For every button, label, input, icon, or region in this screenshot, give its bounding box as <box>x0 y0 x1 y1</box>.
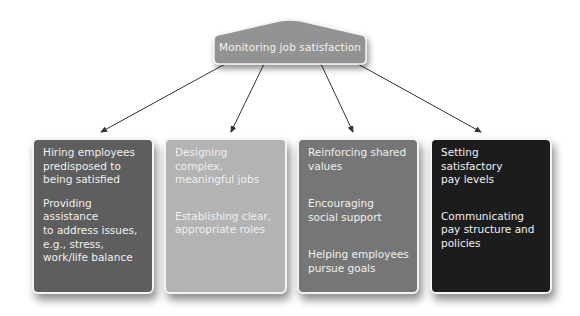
card-2-item-2: Establishing clear, appropriate roles <box>175 210 277 237</box>
card-3-item-1: Reinforcing shared values <box>308 146 409 173</box>
arrow-to-card-4 <box>358 64 481 132</box>
job-satisfaction-diagram: Monitoring job satisfaction Hiring emplo… <box>0 0 580 316</box>
card-3-item-3: Helping employees pursue goals <box>308 248 409 275</box>
card-4-item-1: Setting satisfactory pay levels <box>441 146 542 187</box>
arrow-to-card-3 <box>321 64 353 132</box>
card-1-item-2: Providing assistance to address issues, … <box>43 197 144 265</box>
root-node-label: Monitoring job satisfaction <box>213 41 367 53</box>
card-job-design: Designing complex, meaningful jobs Estab… <box>164 138 287 294</box>
arrow-to-card-2 <box>231 64 264 132</box>
arrow-to-card-1 <box>101 64 225 132</box>
card-4-item-2: Communicating pay structure and policies <box>441 210 542 251</box>
card-shared-values: Reinforcing shared values Encouraging so… <box>297 138 419 294</box>
card-1-item-1: Hiring employees predisposed to being sa… <box>43 146 144 187</box>
card-2-item-1: Designing complex, meaningful jobs <box>175 146 277 187</box>
card-hiring: Hiring employees predisposed to being sa… <box>32 138 154 294</box>
card-pay: Setting satisfactory pay levels Communic… <box>430 138 552 294</box>
card-3-item-2: Encouraging social support <box>308 197 409 224</box>
root-node-monitoring: Monitoring job satisfaction <box>213 19 367 65</box>
